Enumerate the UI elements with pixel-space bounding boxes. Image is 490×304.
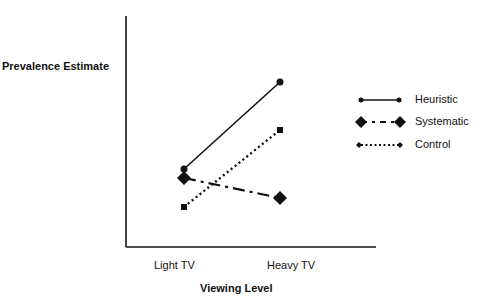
y-axis-label: Prevalence Estimate <box>2 60 109 72</box>
chart-canvas <box>0 0 490 304</box>
legend <box>355 98 406 149</box>
series-control <box>181 127 283 210</box>
legend-systematic: Systematic <box>415 115 469 127</box>
x-tick-heavy-tv: Heavy TV <box>267 259 315 271</box>
legend-control: Control <box>415 138 450 150</box>
series-heuristic <box>181 79 284 173</box>
legend-heuristic: Heuristic <box>415 93 458 105</box>
x-axis-label: Viewing Level <box>200 282 273 294</box>
x-tick-light-tv: Light TV <box>154 259 195 271</box>
